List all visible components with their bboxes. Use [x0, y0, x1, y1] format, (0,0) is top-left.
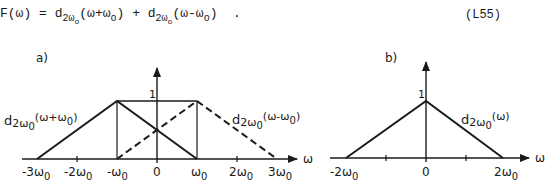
svg-text:2ω0: 2ω0	[494, 165, 518, 182]
panel-a-omega-label: ω	[303, 152, 313, 166]
panel-a: a) ω 1 d2ω0(ω+ω0) d2ω0(ω-ω0) -3ω0 -2ω0 -…	[4, 51, 313, 182]
figure: a) ω 1 d2ω0(ω+ω0) d2ω0(ω-ω0) -3ω0 -2ω0 -…	[0, 0, 558, 183]
svg-text:ω0: ω0	[191, 165, 207, 182]
panel-b: b) ω 1 d2ω0(ω) -2ω0 0 2ω0	[330, 51, 545, 182]
label-d-minus: d2ω0(ω-ω0)	[232, 110, 300, 131]
panel-a-label: a)	[36, 51, 48, 65]
panel-a-one-label: 1	[149, 88, 156, 101]
panel-b-one-label: 1	[418, 88, 425, 101]
svg-text:-3ω0: -3ω0	[22, 165, 50, 182]
panel-a-tick-labels: -3ω0 -2ω0 -ω0 0 ω0 2ω0 3ω0	[22, 165, 292, 182]
panel-b-label: b)	[385, 51, 397, 65]
svg-text:-2ω0: -2ω0	[64, 165, 92, 182]
svg-text:3ω0: 3ω0	[268, 165, 292, 182]
svg-text:-ω0: -ω0	[107, 165, 128, 182]
panel-b-omega-label: ω	[535, 151, 545, 165]
svg-text:0: 0	[153, 165, 161, 179]
label-d-plus: d2ω0(ω+ω0)	[4, 111, 77, 132]
svg-text:0: 0	[422, 165, 430, 179]
svg-text:-2ω0: -2ω0	[330, 165, 358, 182]
label-d: d2ω0(ω)	[461, 110, 510, 131]
curve-d	[346, 101, 503, 158]
svg-text:2ω0: 2ω0	[229, 165, 253, 182]
panel-b-tick-labels: -2ω0 0 2ω0	[330, 165, 518, 182]
